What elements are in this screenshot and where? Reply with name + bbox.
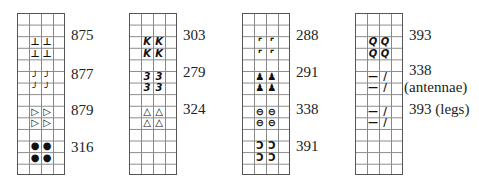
stitch-symbol-icon: / bbox=[379, 117, 391, 129]
thread-color-label: 393 (legs) bbox=[409, 102, 469, 117]
thread-color-label: 316 bbox=[71, 140, 94, 155]
stitch-symbol-icon: ⊖ bbox=[266, 106, 278, 118]
stitch-symbol-icon: ⊖ bbox=[254, 106, 266, 118]
stitch-symbol-icon: ● bbox=[29, 141, 41, 153]
stitch-symbol-icon: ♟ bbox=[266, 71, 278, 83]
stitch-symbol-icon: ⊥ bbox=[41, 48, 53, 60]
stitch-symbol-icon: K bbox=[153, 36, 165, 48]
stitch-symbol-icon: ⊖ bbox=[254, 117, 266, 129]
stitch-symbol-icon: K bbox=[141, 36, 153, 48]
stitch-symbol-icon: ♟ bbox=[254, 83, 266, 95]
stitch-symbol-icon: / bbox=[379, 71, 391, 83]
stitch-symbol-icon: ╯ bbox=[29, 83, 41, 95]
stitch-symbol-icon: — bbox=[367, 117, 379, 129]
stitch-symbol-icon: — bbox=[367, 106, 379, 118]
stitch-symbol-icon: ▷ bbox=[29, 106, 41, 118]
stitch-symbol-icon: Q bbox=[367, 36, 379, 48]
stitch-symbol-icon: Ↄ bbox=[266, 152, 278, 164]
stitch-symbol-icon: Q bbox=[379, 36, 391, 48]
stitch-symbol-icon: ╯ bbox=[41, 83, 53, 95]
thread-color-label: 303 bbox=[183, 28, 206, 43]
stitch-symbol-icon: ▷ bbox=[41, 106, 53, 118]
stitch-symbol-icon: △ bbox=[141, 117, 153, 129]
stitch-symbol-icon: K bbox=[153, 48, 165, 60]
stitch-symbol-icon: — bbox=[367, 71, 379, 83]
stitch-symbol-icon: ⊖ bbox=[266, 117, 278, 129]
stitch-symbol-icon: Ↄ bbox=[254, 141, 266, 153]
stitch-symbol-icon: ⊥ bbox=[41, 36, 53, 48]
thread-color-label: 288 bbox=[296, 28, 319, 43]
stitch-symbol-icon: △ bbox=[141, 106, 153, 118]
stitch-symbol-icon: 3 bbox=[153, 83, 165, 95]
stitch-symbol-icon: ⊥ bbox=[29, 36, 41, 48]
stitch-symbol-icon: ╯ bbox=[29, 71, 41, 83]
stitch-symbol-icon: — bbox=[367, 83, 379, 95]
thread-color-label: 338 bbox=[296, 102, 319, 117]
thread-color-label: 338 bbox=[409, 63, 432, 78]
thread-color-sublabel: (antennae) bbox=[404, 80, 467, 95]
thread-color-label: 291 bbox=[296, 65, 319, 80]
stitch-symbol-icon: △ bbox=[153, 106, 165, 118]
thread-color-label: 877 bbox=[71, 67, 94, 82]
thread-color-label: 875 bbox=[71, 28, 94, 43]
stitch-symbol-icon: K bbox=[141, 48, 153, 60]
stitch-symbol-icon: 3 bbox=[153, 71, 165, 83]
stitch-symbol-icon: / bbox=[379, 106, 391, 118]
thread-color-label: 879 bbox=[71, 103, 94, 118]
stitch-symbol-icon: ● bbox=[29, 152, 41, 164]
thread-color-label: 279 bbox=[183, 65, 206, 80]
thread-color-label: 391 bbox=[296, 139, 319, 154]
stitch-symbol-icon: Ↄ bbox=[254, 152, 266, 164]
stitch-symbol-icon: Q bbox=[367, 48, 379, 60]
stitch-symbol-icon: ♟ bbox=[266, 83, 278, 95]
thread-color-label: 393 bbox=[409, 28, 432, 43]
stitch-symbol-icon: 3 bbox=[141, 83, 153, 95]
stitch-symbol-icon: ╯ bbox=[41, 71, 53, 83]
stitch-symbol-icon: ⌜ bbox=[254, 36, 266, 48]
stitch-symbol-icon: ⌜ bbox=[266, 48, 278, 60]
stitch-symbol-icon: ▷ bbox=[41, 117, 53, 129]
stitch-symbol-icon: ▷ bbox=[29, 117, 41, 129]
stitch-symbol-icon: △ bbox=[153, 117, 165, 129]
stitch-symbol-icon: Q bbox=[379, 48, 391, 60]
thread-color-label: 324 bbox=[183, 102, 206, 117]
stitch-symbol-icon: ● bbox=[41, 152, 53, 164]
stitch-symbol-icon: Ↄ bbox=[266, 141, 278, 153]
stitch-symbol-icon: ⌜ bbox=[254, 48, 266, 60]
stitch-symbol-icon: 3 bbox=[141, 71, 153, 83]
stitch-symbol-icon: / bbox=[379, 83, 391, 95]
stitch-symbol-icon: ● bbox=[41, 141, 53, 153]
stitch-symbol-icon: ♟ bbox=[254, 71, 266, 83]
stitch-symbol-icon: ⊥ bbox=[29, 48, 41, 60]
stitch-symbol-icon: ⌜ bbox=[266, 36, 278, 48]
